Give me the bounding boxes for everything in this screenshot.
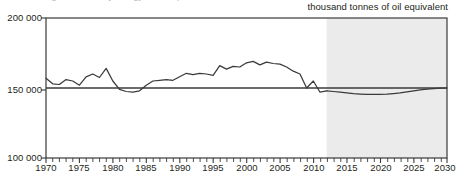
chart-figure: Figure 1: Primary energy consumption, 19… [0, 0, 456, 181]
chart-svg [0, 0, 456, 181]
y-axis-ticks [41, 18, 46, 158]
